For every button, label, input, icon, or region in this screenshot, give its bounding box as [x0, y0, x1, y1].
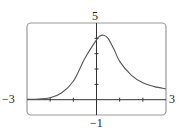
x-max-label: 3 [169, 93, 175, 105]
x-min-label: −3 [2, 93, 15, 105]
y-max-label: 5 [92, 10, 98, 22]
y-min-label: −1 [90, 117, 103, 129]
plot [0, 0, 179, 131]
